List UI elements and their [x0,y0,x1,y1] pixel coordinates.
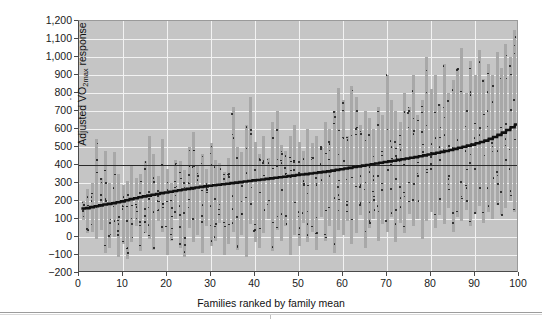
x-tick-mark [430,272,431,276]
x-tick-mark [122,272,123,276]
y-tick-label: −200 [36,267,72,277]
x-tick-label: 30 [195,278,225,289]
x-tick-label: 90 [459,278,489,289]
y-tick-label: 1,000 [36,51,72,61]
x-tick-label: 20 [151,278,181,289]
x-tick-mark [210,272,211,276]
x-tick-mark [342,272,343,276]
footer-rule [0,312,542,313]
x-tick-mark [474,272,475,276]
x-tick-label: 50 [283,278,313,289]
y-tick-label: 900 [36,69,72,79]
y-tick-mark [74,182,78,183]
y-tick-mark [74,254,78,255]
y-tick-mark [74,218,78,219]
x-tick-label: 100 [503,278,533,289]
range-bar [518,35,519,199]
x-tick-mark [386,272,387,276]
scatter-dot [518,93,519,95]
y-tick-label: 500 [36,141,72,151]
y-tick-mark [74,236,78,237]
y-tick-label: 1,100 [36,33,72,43]
y-tick-mark [74,200,78,201]
y-tick-label: 400 [36,159,72,169]
x-tick-mark [166,272,167,276]
y-tick-label: 600 [36,123,72,133]
x-tick-label: 40 [239,278,269,289]
x-tick-label: 10 [107,278,137,289]
x-tick-label: 70 [371,278,401,289]
x-tick-mark [518,272,519,276]
x-tick-mark [254,272,255,276]
y-tick-label: −100 [36,249,72,259]
y-tick-label: 200 [36,195,72,205]
x-tick-mark [78,272,79,276]
footer-rule-secondary [0,314,542,315]
y-axis-title: Adjusted VO2max response [76,0,88,174]
y-tick-label: 700 [36,105,72,115]
y-tick-label: 100 [36,213,72,223]
figure-root: −200−10001002003004005006007008009001,00… [0,0,542,319]
x-tick-mark [298,272,299,276]
x-axis-title: Families ranked by family mean [0,297,542,309]
x-tick-label: 60 [327,278,357,289]
x-tick-label: 80 [415,278,445,289]
family-mean-line [79,21,517,271]
y-tick-label: 1,200 [36,15,72,25]
plot-area [78,20,518,272]
y-tick-label: 0 [36,231,72,241]
y-tick-label: 300 [36,177,72,187]
y-tick-label: 800 [36,87,72,97]
footer-tick-nub [270,315,271,319]
x-tick-label: 0 [63,278,93,289]
